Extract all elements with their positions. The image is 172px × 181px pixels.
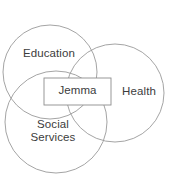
venn-diagram: Education Health Social Services Jemma: [0, 0, 172, 181]
center-box-jemma: [44, 78, 111, 105]
venn-diagram-canvas: [0, 0, 172, 181]
